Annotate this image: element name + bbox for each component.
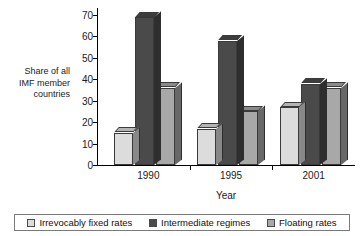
y-tick-label: 20	[82, 117, 93, 128]
y-axis-tick-labels: 010203040506070	[66, 8, 93, 166]
bar-side-face	[320, 78, 327, 165]
y-tick-label: 10	[82, 138, 93, 149]
y-tick-label: 40	[82, 74, 93, 85]
legend-label: Irrevocably fixed rates	[39, 217, 132, 228]
bar-side-face	[154, 12, 161, 165]
legend-swatch	[27, 219, 35, 227]
x-axis-title: Year	[97, 190, 355, 201]
x-tick-label: 1995	[220, 170, 242, 181]
y-axis-tick	[93, 144, 97, 145]
y-tick-label: 50	[82, 52, 93, 63]
x-axis-tick	[190, 165, 191, 170]
bar	[114, 133, 133, 165]
bar-side-face	[237, 35, 244, 165]
y-axis-tick	[93, 36, 97, 37]
legend-label: Floating rates	[279, 217, 337, 228]
legend-swatch	[149, 219, 157, 227]
y-tick-label: 60	[82, 31, 93, 42]
bar-side-face	[175, 82, 182, 165]
bar-chart: Share of all IMF member countries 010203…	[0, 0, 363, 236]
y-axis-tick	[93, 122, 97, 123]
y-axis-title: Share of all IMF member countries	[2, 66, 70, 101]
bar	[197, 129, 216, 165]
clipped-title-strip	[0, 0, 363, 3]
y-axis-tick	[93, 58, 97, 59]
bar-front-face	[114, 133, 133, 165]
y-axis-line	[97, 8, 98, 166]
bar-group	[190, 8, 273, 165]
legend-item: Intermediate regimes	[149, 217, 250, 228]
x-tick-label: 1990	[137, 170, 159, 181]
y-axis-tick	[93, 15, 97, 16]
bar-front-face	[280, 107, 299, 165]
bar-side-face	[299, 102, 306, 165]
y-axis-tick	[93, 101, 97, 102]
legend-label: Intermediate regimes	[161, 217, 250, 228]
y-axis-tick	[93, 79, 97, 80]
x-axis-tick	[272, 165, 273, 170]
bar-side-face	[216, 123, 223, 165]
legend-swatch	[267, 219, 275, 227]
y-tick-label: 30	[82, 95, 93, 106]
bar-side-face	[133, 127, 140, 165]
plot-area	[97, 8, 355, 166]
chart-legend: Irrevocably fixed ratesIntermediate regi…	[14, 214, 350, 231]
legend-item: Irrevocably fixed rates	[27, 217, 132, 228]
x-axis-line	[97, 165, 355, 166]
legend-item: Floating rates	[267, 217, 337, 228]
bar-side-face	[341, 82, 348, 165]
x-tick-label: 2001	[303, 170, 325, 181]
y-axis-tick	[93, 165, 97, 166]
y-tick-label: 70	[82, 10, 93, 21]
bar	[280, 107, 299, 165]
bar-side-face	[258, 106, 265, 165]
bar-group	[272, 8, 355, 165]
bar-group	[107, 8, 190, 165]
bar-front-face	[197, 129, 216, 165]
